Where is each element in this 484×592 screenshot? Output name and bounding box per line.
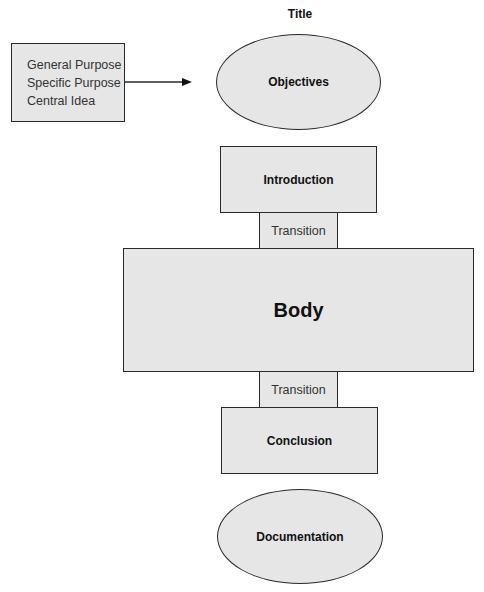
specific-purpose-label: Specific Purpose (27, 74, 121, 92)
documentation-ellipse: Documentation (217, 489, 383, 584)
introduction-box: Introduction (220, 146, 377, 213)
conclusion-box: Conclusion (221, 407, 378, 474)
transition-box-1: Transition (259, 212, 338, 249)
transition-label-2: Transition (271, 383, 325, 397)
transition-label-1: Transition (271, 224, 325, 238)
conclusion-label: Conclusion (267, 434, 332, 448)
arrow-icon (124, 76, 196, 88)
introduction-label: Introduction (264, 173, 334, 187)
body-box: Body (123, 248, 474, 372)
diagram-title: Title (250, 7, 350, 21)
body-label: Body (274, 299, 324, 322)
objectives-ellipse: Objectives (216, 34, 381, 130)
objectives-label: Objectives (268, 75, 329, 89)
transition-box-2: Transition (259, 371, 338, 408)
general-purpose-label: General Purpose (27, 56, 122, 74)
documentation-label: Documentation (256, 530, 343, 544)
purpose-box: General Purpose Specific Purpose Central… (11, 43, 125, 122)
central-idea-label: Central Idea (27, 92, 95, 110)
